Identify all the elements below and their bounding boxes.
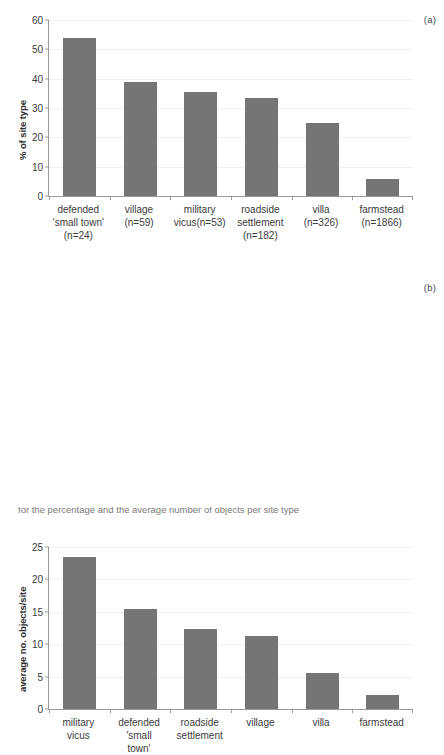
bar[interactable] (184, 92, 217, 196)
y-tick-label: 20 (32, 574, 43, 585)
bar-slot (170, 547, 231, 709)
x-axis-label: defended 'small town' (109, 716, 170, 755)
plot-area-a: 0102030405060 (48, 20, 413, 197)
y-axis-title-b: average no. objects/site (17, 587, 28, 692)
panel-label-a: (a) (424, 14, 436, 25)
y-tick-label: 50 (32, 44, 43, 55)
x-axis-label: farmstead (n=1866) (351, 203, 412, 242)
bar[interactable] (124, 609, 157, 709)
y-tick-label: 0 (37, 704, 43, 715)
x-axis-labels-b: military vicusdefended 'small town'roads… (48, 716, 412, 755)
x-axis-label: villa (n=326) (291, 203, 352, 242)
x-tick-mark (352, 709, 353, 713)
bar[interactable] (124, 82, 157, 196)
bar-slot (292, 20, 353, 196)
x-axis-label: farmstead (351, 716, 412, 755)
bar-slot (292, 547, 353, 709)
bar-slot (352, 547, 413, 709)
bar-slot (110, 20, 171, 196)
x-tick-mark (49, 196, 50, 200)
y-tick-label: 40 (32, 73, 43, 84)
y-tick-label: 15 (32, 606, 43, 617)
chart-panel-b: (b) average no. objects/site 0510152025 … (0, 262, 444, 515)
bar[interactable] (63, 38, 96, 196)
x-axis-label: military vicus(n=53) (169, 203, 230, 242)
x-axis-labels-a: defended 'small town' (n=24)village (n=5… (48, 203, 412, 242)
y-tick-label: 25 (32, 542, 43, 553)
bar-series-a (49, 20, 413, 196)
bar[interactable] (63, 557, 96, 709)
x-tick-mark (292, 709, 293, 713)
x-tick-mark (110, 709, 111, 713)
x-tick-mark (412, 196, 413, 200)
x-tick-mark (170, 196, 171, 200)
y-tick-label: 5 (37, 671, 43, 682)
bar[interactable] (306, 123, 339, 196)
bar-slot (49, 20, 110, 196)
chart-panel-a: (a) % of site type 0102030405060 defende… (0, 0, 444, 262)
x-axis-label: roadside settlement (169, 716, 230, 755)
bar[interactable] (306, 673, 339, 709)
bar[interactable] (366, 179, 399, 196)
x-tick-mark (231, 709, 232, 713)
x-axis-label: roadside settlement (n=182) (230, 203, 291, 242)
bar[interactable] (366, 695, 399, 709)
plot-area-b: 0510152025 (48, 547, 413, 710)
panel-label-b: (b) (424, 282, 436, 293)
x-axis-label: defended 'small town' (n=24) (48, 203, 109, 242)
x-axis-label: village (n=59) (109, 203, 170, 242)
y-tick-label: 30 (32, 103, 43, 114)
bar[interactable] (184, 629, 217, 709)
x-axis-label: villa (291, 716, 352, 755)
x-tick-mark (292, 196, 293, 200)
bar-slot (231, 547, 292, 709)
bar-slot (110, 547, 171, 709)
x-tick-mark (231, 196, 232, 200)
bar-slot (170, 20, 231, 196)
y-tick-label: 60 (32, 15, 43, 26)
bar-series-b (49, 547, 413, 709)
figure-caption-text: for the percentage and the average numbe… (18, 507, 299, 515)
bar[interactable] (245, 98, 278, 196)
x-axis-label: village (230, 716, 291, 755)
x-tick-mark (49, 709, 50, 713)
x-tick-mark (352, 196, 353, 200)
y-tick-label: 0 (37, 191, 43, 202)
x-tick-mark (110, 196, 111, 200)
y-tick-label: 10 (32, 161, 43, 172)
y-tick-label: 10 (32, 639, 43, 650)
x-axis-label: military vicus (48, 716, 109, 755)
y-axis-title-a: % of site type (17, 100, 28, 160)
x-tick-mark (170, 709, 171, 713)
bar-slot (352, 20, 413, 196)
figure-caption-cropped: for the percentage and the average numbe… (0, 507, 444, 515)
bar[interactable] (245, 636, 278, 709)
x-tick-mark (412, 709, 413, 713)
bar-slot (49, 547, 110, 709)
y-tick-label: 20 (32, 132, 43, 143)
bar-slot (231, 20, 292, 196)
